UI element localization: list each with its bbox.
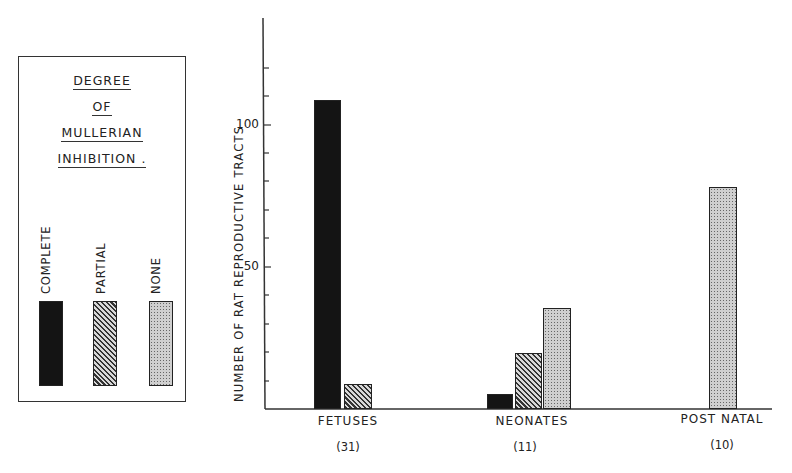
y-tick-100: 100 — [219, 117, 259, 131]
bar-fetuses-partial — [344, 384, 372, 409]
y-tick-50: 50 — [219, 259, 259, 273]
x-label-neonates: NEONATES — [462, 414, 602, 428]
x-n-fetuses: (31) — [318, 440, 378, 454]
x-label-fetuses: FETUSES — [278, 414, 418, 428]
axes — [0, 0, 792, 473]
bar-fetuses-complete — [314, 100, 341, 409]
x-label-postnatal: POST NATAL — [652, 412, 792, 426]
bar-postnatal-none — [709, 187, 737, 409]
x-n-neonates: (11) — [495, 440, 555, 454]
x-n-postnatal: (10) — [692, 438, 752, 452]
bar-neonates-none — [543, 308, 571, 409]
bar-neonates-complete — [487, 394, 513, 409]
bar-neonates-partial — [515, 353, 542, 409]
